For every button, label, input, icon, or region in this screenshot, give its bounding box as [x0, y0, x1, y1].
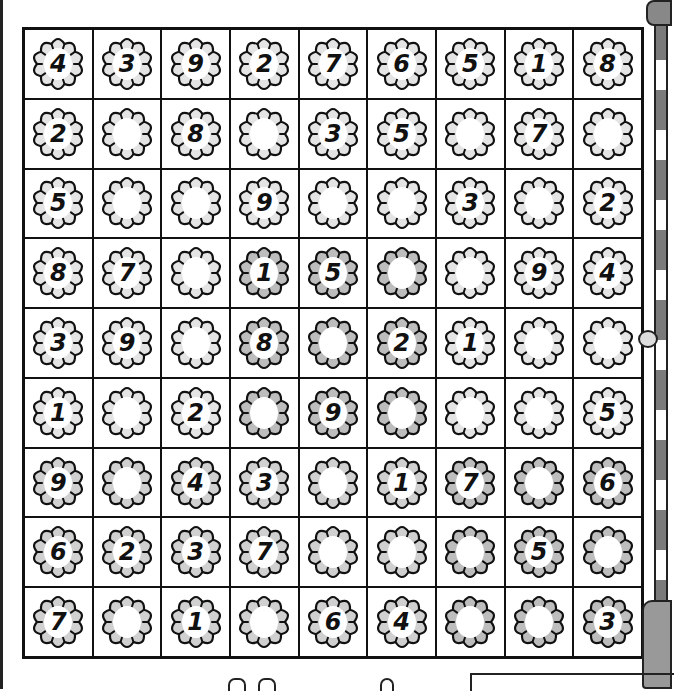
sudoku-cell[interactable]	[299, 448, 368, 518]
sudoku-cell[interactable]: 1	[505, 29, 574, 99]
sudoku-cell[interactable]: 7	[505, 99, 574, 169]
sudoku-cell[interactable]: 9	[299, 378, 368, 448]
sudoku-cell[interactable]	[161, 308, 230, 378]
given-number: 5	[507, 520, 571, 584]
sudoku-cell[interactable]: 3	[436, 169, 505, 239]
sudoku-cell[interactable]: 3	[299, 99, 368, 169]
sudoku-cell[interactable]	[93, 587, 162, 657]
sudoku-cell[interactable]: 6	[299, 587, 368, 657]
sudoku-cell[interactable]: 5	[299, 238, 368, 308]
given-number: 2	[576, 171, 640, 235]
sudoku-cell[interactable]	[436, 378, 505, 448]
empty-slot	[301, 311, 365, 375]
sudoku-cell[interactable]: 2	[573, 169, 642, 239]
sudoku-cell[interactable]: 8	[161, 99, 230, 169]
empty-slot	[507, 590, 571, 654]
flower-icon: 2	[576, 171, 640, 235]
sudoku-cell[interactable]: 9	[505, 238, 574, 308]
sudoku-cell[interactable]	[367, 517, 436, 587]
sudoku-cell[interactable]: 3	[24, 308, 93, 378]
sudoku-cell[interactable]: 7	[93, 238, 162, 308]
sudoku-cell[interactable]: 6	[573, 448, 642, 518]
sudoku-cell[interactable]: 1	[436, 308, 505, 378]
sudoku-cell[interactable]: 1	[24, 378, 93, 448]
sudoku-cell[interactable]: 9	[230, 169, 299, 239]
sudoku-cell[interactable]: 6	[24, 517, 93, 587]
sudoku-cell[interactable]: 3	[161, 517, 230, 587]
sudoku-cell[interactable]: 9	[24, 448, 93, 518]
sudoku-cell[interactable]: 7	[230, 517, 299, 587]
sudoku-cell[interactable]	[93, 378, 162, 448]
sudoku-cell[interactable]: 1	[161, 587, 230, 657]
sudoku-cell[interactable]	[93, 169, 162, 239]
sudoku-cell[interactable]: 7	[299, 29, 368, 99]
flower-icon	[438, 590, 502, 654]
given-number: 5	[576, 381, 640, 445]
sudoku-cell[interactable]	[93, 99, 162, 169]
flower-icon: 2	[232, 32, 296, 96]
sudoku-cell[interactable]	[505, 587, 574, 657]
sudoku-cell[interactable]: 5	[367, 99, 436, 169]
sudoku-cell[interactable]: 4	[24, 29, 93, 99]
sudoku-cell[interactable]: 9	[93, 308, 162, 378]
sudoku-cell[interactable]: 4	[367, 587, 436, 657]
flower-icon	[370, 171, 434, 235]
sudoku-cell[interactable]: 8	[230, 308, 299, 378]
sudoku-cell[interactable]	[505, 448, 574, 518]
sudoku-cell[interactable]: 5	[505, 517, 574, 587]
sudoku-cell[interactable]	[367, 238, 436, 308]
sudoku-cell[interactable]: 2	[93, 517, 162, 587]
sudoku-cell[interactable]	[161, 238, 230, 308]
sudoku-cell[interactable]	[230, 378, 299, 448]
sudoku-cell[interactable]	[436, 238, 505, 308]
sudoku-cell[interactable]	[436, 517, 505, 587]
sudoku-cell[interactable]: 7	[24, 587, 93, 657]
flower-icon: 7	[95, 241, 159, 305]
sudoku-cell[interactable]	[505, 378, 574, 448]
sudoku-cell[interactable]	[436, 587, 505, 657]
sudoku-cell[interactable]: 5	[24, 169, 93, 239]
sudoku-cell[interactable]: 1	[230, 238, 299, 308]
sudoku-cell[interactable]: 5	[573, 378, 642, 448]
sudoku-cell[interactable]	[299, 308, 368, 378]
sudoku-cell[interactable]: 2	[161, 378, 230, 448]
flower-icon	[232, 102, 296, 166]
given-number: 2	[164, 381, 228, 445]
sudoku-cell[interactable]	[573, 308, 642, 378]
empty-slot	[576, 311, 640, 375]
sudoku-cell[interactable]: 3	[230, 448, 299, 518]
sudoku-cell[interactable]	[230, 587, 299, 657]
sudoku-cell[interactable]: 8	[573, 29, 642, 99]
sudoku-cell[interactable]	[573, 517, 642, 587]
empty-slot	[370, 171, 434, 235]
sudoku-cell[interactable]: 2	[230, 29, 299, 99]
given-number: 6	[301, 590, 365, 654]
sudoku-cell[interactable]: 4	[573, 238, 642, 308]
sudoku-cell[interactable]	[505, 308, 574, 378]
sudoku-cell[interactable]	[230, 99, 299, 169]
sudoku-cell[interactable]: 2	[367, 308, 436, 378]
sudoku-cell[interactable]: 6	[367, 29, 436, 99]
sudoku-cell[interactable]: 3	[93, 29, 162, 99]
sudoku-cell[interactable]: 2	[24, 99, 93, 169]
flower-icon	[576, 311, 640, 375]
sudoku-cell[interactable]	[436, 99, 505, 169]
sudoku-cell[interactable]	[367, 169, 436, 239]
sudoku-cell[interactable]: 7	[436, 448, 505, 518]
flower-icon	[507, 171, 571, 235]
empty-slot	[438, 520, 502, 584]
sudoku-cell[interactable]	[367, 378, 436, 448]
sudoku-cell[interactable]: 9	[161, 29, 230, 99]
sudoku-cell[interactable]: 4	[161, 448, 230, 518]
sudoku-cell[interactable]	[299, 169, 368, 239]
sudoku-cell[interactable]: 1	[367, 448, 436, 518]
sudoku-cell[interactable]: 3	[573, 587, 642, 657]
sudoku-cell[interactable]: 5	[436, 29, 505, 99]
sudoku-cell[interactable]	[505, 169, 574, 239]
flower-icon: 6	[26, 520, 90, 584]
sudoku-cell[interactable]: 8	[24, 238, 93, 308]
sudoku-cell[interactable]	[93, 448, 162, 518]
sudoku-cell[interactable]	[573, 99, 642, 169]
sudoku-cell[interactable]	[161, 169, 230, 239]
sudoku-cell[interactable]	[299, 517, 368, 587]
